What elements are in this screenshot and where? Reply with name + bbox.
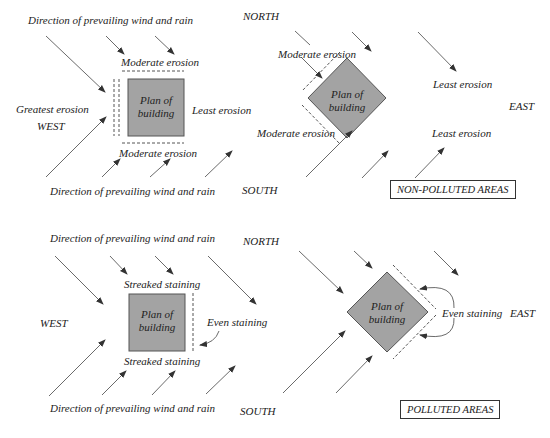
compass-east: EAST: [509, 100, 534, 112]
nw-face-label: Moderate erosion: [278, 48, 356, 60]
wind-direction-label-top: Direction of prevailing wind and rain: [28, 14, 193, 26]
ne-face-label: Least erosion: [433, 78, 492, 90]
building-label: Plan of building: [127, 308, 187, 334]
wind-arrow: [208, 256, 256, 304]
east-face-label: Even staining: [442, 307, 502, 319]
wind-arrow: [301, 57, 322, 78]
se-face-label: Least erosion: [432, 127, 491, 139]
building-label-line1: Plan of: [357, 300, 417, 313]
east-face-label: Least erosion: [192, 104, 251, 116]
wind-arrow: [295, 31, 310, 45]
erosion-staining-diagram: Direction of prevailing wind and rain Mo…: [0, 0, 550, 438]
building-label-line1: Plan of: [317, 88, 377, 101]
building-label: Plan of building: [357, 300, 417, 326]
polluted-areas-label: POLLUTED AREAS: [400, 400, 500, 419]
compass-south: SOUTH: [240, 405, 275, 417]
building-label: Plan of building: [317, 88, 377, 114]
compass-south: SOUTH: [242, 184, 277, 196]
wind-arrow: [155, 36, 174, 54]
building-label-line1: Plan of: [126, 94, 186, 107]
even-staining-pointer-lower: [420, 318, 454, 337]
wind-arrow: [415, 148, 444, 178]
building-label-line2: building: [317, 101, 377, 114]
building-label-line2: building: [357, 313, 417, 326]
wind-arrow: [205, 151, 232, 177]
compass-east: EAST: [510, 307, 535, 319]
building-label: Plan of building: [126, 94, 186, 120]
wind-arrow: [206, 366, 235, 394]
wind-arrow: [362, 151, 388, 178]
wind-direction-label-bottom: Direction of prevailing wind and rain: [50, 185, 215, 197]
sw-face-label: Moderate erosion: [257, 127, 335, 139]
west-face-label: Greatest erosion: [16, 103, 89, 115]
wind-arrow: [418, 32, 456, 71]
compass-north: NORTH: [243, 10, 279, 22]
building-label-line2: building: [127, 321, 187, 334]
east-face-label: Even staining: [207, 316, 267, 328]
wind-arrow: [106, 36, 124, 54]
diagram-graphics: [0, 0, 550, 438]
compass-north: NORTH: [243, 235, 279, 247]
wind-arrow: [102, 159, 120, 177]
wind-arrow: [354, 251, 372, 268]
wind-arrow: [110, 256, 127, 274]
wind-arrow: [152, 371, 175, 395]
wind-direction-label-top: Direction of prevailing wind and rain: [50, 232, 215, 244]
non-polluted-areas-label: NON-POLLUTED AREAS: [390, 180, 516, 199]
even-staining-pointer: [200, 331, 219, 345]
compass-west: WEST: [37, 120, 65, 132]
wind-arrow: [150, 159, 170, 177]
compass-west: WEST: [40, 317, 68, 329]
north-face-label: Moderate erosion: [121, 56, 199, 68]
wind-arrow: [49, 340, 105, 396]
wind-arrow: [55, 256, 103, 304]
wind-direction-label-bottom: Direction of prevailing wind and rain: [50, 402, 215, 414]
wind-arrow: [434, 251, 458, 275]
north-face-label: Streaked staining: [124, 278, 200, 290]
wind-arrow: [155, 256, 173, 274]
wind-arrow: [283, 331, 345, 393]
wind-arrow: [46, 36, 105, 92]
wind-arrow: [299, 251, 343, 293]
south-face-label: Moderate erosion: [119, 147, 197, 159]
south-face-label: Streaked staining: [124, 355, 200, 367]
wind-arrow: [336, 356, 372, 393]
building-label-line2: building: [126, 107, 186, 120]
wind-arrow: [102, 371, 126, 395]
building-label-line1: Plan of: [127, 308, 187, 321]
